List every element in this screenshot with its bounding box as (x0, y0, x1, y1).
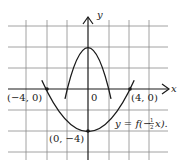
curve-label: y = f(− 1 2 x). (114, 117, 168, 130)
curve-label-frac-num: 1 (150, 117, 154, 123)
point-left-label: (−4, 0) (7, 92, 42, 103)
curve-label-suffix: x). (155, 118, 168, 129)
point-bottom-label: (0, −4) (49, 133, 84, 144)
point-vertex (86, 129, 90, 133)
x-axis-label: x (171, 83, 177, 94)
point-left-root (45, 87, 49, 91)
point-right-label: (4, 0) (131, 92, 158, 103)
y-axis-label: y (96, 9, 103, 20)
curve-label-prefix: y = f(− (114, 118, 151, 129)
function-graph: y x 0 (−4, 0) (4, 0) (0, −4) y = f(− 1 2… (0, 0, 179, 164)
origin-label: 0 (91, 92, 97, 103)
curve-label-frac-den: 2 (150, 124, 154, 130)
point-right-root (128, 87, 132, 91)
